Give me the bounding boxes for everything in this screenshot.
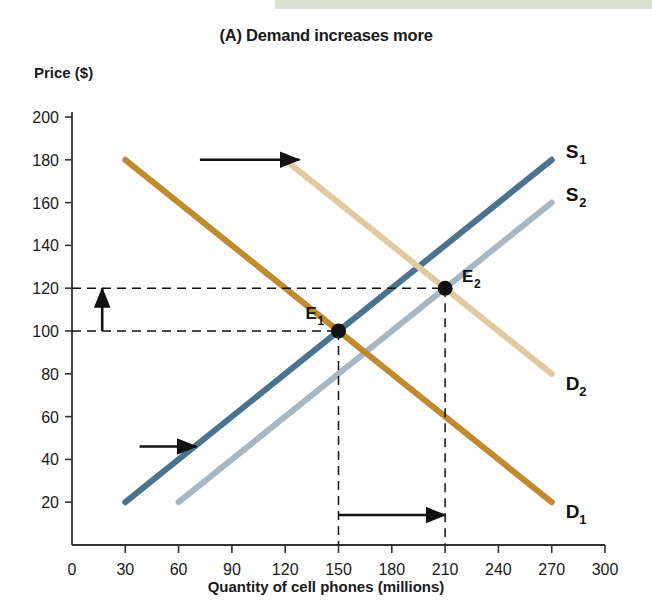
curve-label-sub-d1: 1 bbox=[579, 512, 586, 527]
y-tick-label: 160 bbox=[32, 195, 59, 212]
x-tick-label: 0 bbox=[68, 561, 77, 578]
curve-label-sub-s1: 1 bbox=[579, 152, 586, 167]
x-tick-label: 90 bbox=[223, 561, 241, 578]
x-tick-label: 210 bbox=[432, 561, 459, 578]
equilibrium-dot-e1 bbox=[331, 324, 346, 339]
y-tick-label: 120 bbox=[32, 280, 59, 297]
equilibrium-label-e2: E bbox=[462, 267, 473, 286]
equilibrium-label-sub-e2: 2 bbox=[474, 277, 481, 291]
x-tick-label: 270 bbox=[538, 561, 565, 578]
y-tick-label: 80 bbox=[41, 366, 59, 383]
y-tick-label: 100 bbox=[32, 323, 59, 340]
supply-demand-plot: 2040608010012014016018020003060901201501… bbox=[0, 0, 652, 608]
x-tick-label: 300 bbox=[592, 561, 619, 578]
curve-label-d1: D bbox=[566, 501, 580, 522]
x-tick-label: 180 bbox=[378, 561, 405, 578]
x-tick-label: 60 bbox=[170, 561, 188, 578]
equilibrium-label-e1: E bbox=[306, 304, 317, 323]
y-tick-label: 140 bbox=[32, 237, 59, 254]
y-tick-label: 200 bbox=[32, 109, 59, 126]
x-tick-label: 150 bbox=[325, 561, 352, 578]
x-tick-label: 240 bbox=[485, 561, 512, 578]
equilibrium-label-sub-e1: 1 bbox=[318, 314, 325, 328]
y-tick-label: 20 bbox=[41, 494, 59, 511]
curve-label-s2: S bbox=[566, 184, 579, 205]
curve-label-sub-s2: 2 bbox=[579, 195, 586, 210]
y-tick-label: 180 bbox=[32, 152, 59, 169]
curve-label-s1: S bbox=[566, 141, 579, 162]
curve-label-d2: D bbox=[566, 373, 580, 394]
x-tick-label: 120 bbox=[272, 561, 299, 578]
y-tick-label: 40 bbox=[41, 451, 59, 468]
figure-panel: (A) Demand increases more Price ($) Quan… bbox=[0, 0, 652, 608]
y-tick-label: 60 bbox=[41, 409, 59, 426]
curve-label-sub-d2: 2 bbox=[579, 384, 586, 399]
x-tick-label: 30 bbox=[116, 561, 134, 578]
equilibrium-dot-e2 bbox=[438, 281, 453, 296]
